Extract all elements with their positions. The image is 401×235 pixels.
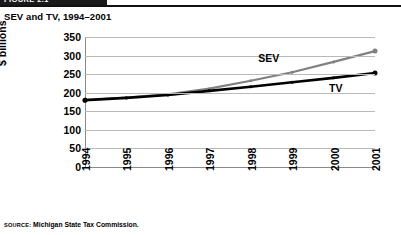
gridline [85, 37, 375, 38]
y-axis-tick-label: 300 [35, 50, 81, 62]
series-annotation-tv: TV [329, 82, 342, 94]
x-axis-tick-label: 1999 [287, 148, 299, 171]
series-annotation-sev: SEV [258, 52, 279, 64]
y-axis-tick-label: 100 [35, 124, 81, 136]
y-axis-tick-label: 0 [35, 161, 81, 173]
x-axis-tick-label: 1994 [80, 148, 92, 171]
data-point-marker [373, 49, 378, 54]
x-axis-tick-label: 2000 [329, 148, 341, 171]
x-axis-tick-label: 1998 [246, 148, 258, 171]
x-axis-tick-label: 1997 [204, 148, 216, 171]
data-point-marker [291, 81, 294, 84]
data-point-marker [83, 98, 88, 103]
gridline [85, 111, 375, 112]
y-axis-tick-label: 200 [35, 87, 81, 99]
y-axis-tick-label: 350 [35, 31, 81, 43]
gridline [85, 130, 375, 131]
x-axis-tick-label: 1995 [121, 148, 133, 171]
gridline [85, 56, 375, 57]
x-axis-tick-label: 2001 [370, 148, 382, 171]
y-axis-tick-label: 50 [35, 142, 81, 154]
data-point-marker [166, 93, 169, 96]
source-text: Michigan State Tax Commission. [33, 221, 139, 228]
figure-title: SEV and TV, 1994–2001 [4, 11, 111, 22]
figure-container: FIGURE 2.1 SEV and TV, 1994–2001 $ billi… [0, 0, 401, 235]
data-point-marker [332, 60, 335, 63]
x-axis-tick-label: 1996 [163, 148, 175, 171]
source-note: SOURCE: Michigan State Tax Commission. [4, 221, 139, 228]
data-point-marker [332, 76, 335, 79]
banner-divider-rule [0, 5, 401, 7]
data-point-marker [249, 85, 252, 88]
data-point-marker [249, 79, 252, 82]
source-prefix: SOURCE: [4, 222, 31, 228]
y-axis-tick-label: 250 [35, 68, 81, 80]
y-axis-title: $ billions [0, 20, 8, 66]
data-point-marker [125, 96, 128, 99]
y-axis-tick-label: 150 [35, 105, 81, 117]
gridline [85, 74, 375, 75]
